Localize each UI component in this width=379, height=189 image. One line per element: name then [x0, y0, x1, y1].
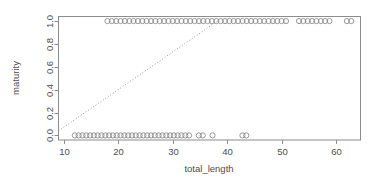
y-tick-label: 0.0: [44, 129, 55, 142]
y-tick-label: 1.0: [44, 15, 55, 28]
figure-background: [0, 0, 379, 189]
x-tick-label: 60: [331, 146, 342, 157]
y-tick-label: 0.6: [44, 61, 55, 74]
scatter-plot-figure: 102030405060 0.00.20.40.60.81.0 total_le…: [0, 0, 379, 189]
x-tick-label: 50: [277, 146, 288, 157]
x-tick-label: 10: [59, 146, 70, 157]
x-tick-label: 40: [222, 146, 233, 157]
x-tick-label: 20: [113, 146, 124, 157]
y-tick-label: 0.4: [44, 84, 55, 97]
x-axis-title: total_length: [184, 163, 233, 174]
x-tick-label: 30: [168, 146, 179, 157]
y-tick-label: 0.2: [44, 107, 55, 120]
plot-canvas: 102030405060 0.00.20.40.60.81.0 total_le…: [0, 0, 379, 189]
y-tick-label: 0.8: [44, 38, 55, 51]
y-axis-title: maturity: [10, 61, 21, 95]
